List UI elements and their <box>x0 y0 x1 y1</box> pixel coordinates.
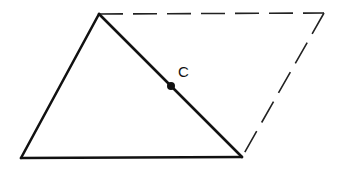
parallelogram-diagram: C <box>0 0 341 170</box>
point-c-label: C <box>178 63 189 80</box>
dashed-edge-top <box>99 13 324 14</box>
triangle-edge-left <box>21 14 99 158</box>
dashed-edge-right <box>242 13 324 157</box>
triangle-edge-base <box>21 157 242 158</box>
diagram-canvas: C <box>0 0 341 170</box>
point-c-marker <box>167 82 175 90</box>
